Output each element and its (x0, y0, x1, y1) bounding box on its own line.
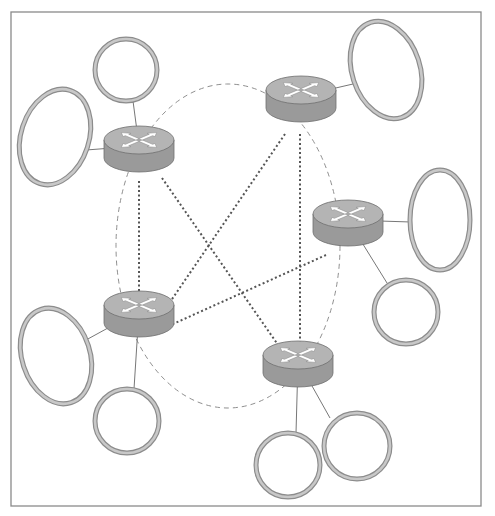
router-r5[interactable] (263, 341, 333, 387)
router-r2[interactable] (266, 76, 336, 122)
router-r1[interactable] (104, 126, 174, 172)
network-diagram (0, 0, 495, 516)
router-r4[interactable] (104, 291, 174, 337)
router-r3[interactable] (313, 200, 383, 246)
